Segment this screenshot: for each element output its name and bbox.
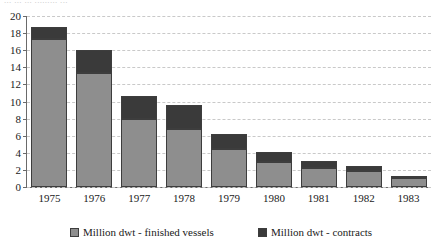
y-axis-tick-label: 4 [16,147,22,158]
x-axis-tick-label: 1976 [83,192,105,205]
bar-group [121,16,157,187]
bar-group [391,16,427,187]
x-axis-tick-label: 1980 [263,192,285,205]
plot-area [27,16,431,187]
x-axis-tick-label: 1981 [308,192,330,205]
legend-label-contracts: Million dwt - contracts [271,226,372,239]
y-axis-tick-label: 14 [10,62,21,73]
bar-segment-contracts [121,96,157,119]
y-axis-tick-label: 18 [10,28,21,39]
bar-segment-finished-vessels [166,129,202,187]
bar-group [211,16,247,187]
legend-item-finished-vessels: Million dwt - finished vessels [70,226,214,239]
legend-item-contracts: Million dwt - contracts [258,226,372,239]
y-axis: 02468101214161820 [0,0,27,187]
y-axis-tick-label: 16 [10,45,21,56]
bar-segment-contracts [391,176,427,178]
x-axis-tick-label: 1982 [353,192,375,205]
bar-segment-contracts [31,27,67,39]
y-axis-tick-label: 8 [16,113,22,124]
legend-swatch-finished-vessels [70,228,79,237]
x-axis-tick-label: 1979 [218,192,240,205]
bar-group [346,16,382,187]
legend-swatch-contracts [258,228,267,237]
bar-segment-finished-vessels [256,162,292,187]
bar-segment-finished-vessels [301,168,337,187]
y-axis-tick-label: 10 [10,96,21,107]
bar-group [76,16,112,187]
bar-segment-contracts [166,105,202,129]
bar-group [31,16,67,187]
chart-legend: Million dwt - finished vessels Million d… [0,226,439,242]
bar-segment-finished-vessels [346,171,382,187]
y-axis-tick-label: 6 [16,130,22,141]
bar-segment-finished-vessels [391,178,427,187]
y-axis-tick-label: 0 [16,182,22,193]
y-axis-tick-label: 20 [10,11,21,22]
x-axis-tick-label: 1983 [398,192,420,205]
bar-segment-contracts [256,152,292,162]
bar-segment-finished-vessels [121,119,157,187]
bar-segment-finished-vessels [31,39,67,187]
bar-segment-contracts [301,161,337,168]
x-axis: 197519761977197819791980198119821983 [27,192,431,210]
stacked-bar-chart: ... ... ... ......... ... 02468101214161… [0,0,439,245]
y-axis-tick-label: 12 [10,79,21,90]
bar-segment-finished-vessels [76,73,112,187]
bar-segment-contracts [346,166,382,171]
bar-group [166,16,202,187]
bar-segment-contracts [211,134,247,149]
bar-segment-contracts [76,50,112,73]
bar-group [256,16,292,187]
gridline [27,187,431,188]
y-axis-tick-label: 2 [16,164,22,175]
x-axis-tick-label: 1978 [173,192,195,205]
x-axis-tick-label: 1975 [38,192,60,205]
bar-segment-finished-vessels [211,149,247,187]
x-axis-tick-label: 1977 [128,192,150,205]
bar-group [301,16,337,187]
legend-label-finished-vessels: Million dwt - finished vessels [83,226,214,239]
